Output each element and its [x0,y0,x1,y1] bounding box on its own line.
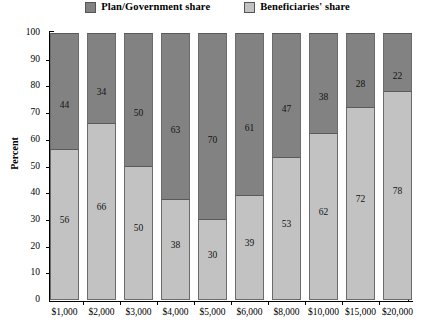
bar-3000: 5050 [124,33,153,300]
bar-segment-plan-government-share: 47 [272,33,301,158]
bar-value-label: 50 [134,224,144,234]
chart-legend: Plan/Government share Beneficiaries' sha… [0,2,435,13]
bar-segment-plan-government-share: 44 [50,33,79,150]
y-tick-label-80: 80 [0,82,40,92]
bar-segment-plan-government-share: 34 [87,33,116,124]
bar-segment-plan-government-share: 28 [346,33,375,108]
bar-segment-beneficiaries-share: 66 [87,124,116,300]
bar-8000: 4753 [272,33,301,300]
bar-value-label: 72 [356,195,366,205]
bar-value-label: 66 [97,203,107,213]
plot-area: 4456346650506338703061394753386228722278 [50,33,412,300]
bar-10000: 3862 [309,33,338,300]
x-tick-mark [268,301,269,305]
x-tick-mark [157,301,158,305]
bar-2000: 3466 [87,33,116,300]
bar-value-label: 28 [356,80,366,90]
x-axis-label-20000: $20,000 [370,307,426,317]
bar-segment-plan-government-share: 38 [309,33,338,134]
legend-item-plan-government-share: Plan/Government share [85,2,210,13]
bar-15000: 2872 [346,33,375,300]
legend-swatch-icon-light [244,2,255,13]
legend-label-plan-government-share: Plan/Government share [101,2,210,13]
x-tick-mark [379,301,380,305]
bar-segment-beneficiaries-share: 50 [124,167,153,301]
bar-segment-beneficiaries-share: 62 [309,134,338,300]
bar-value-label: 53 [282,220,292,230]
x-tick-mark [120,301,121,305]
stacked-bar-chart: Plan/Government share Beneficiaries' sha… [0,0,435,331]
bar-segment-beneficiaries-share: 72 [346,108,375,300]
bar-value-label: 39 [245,239,255,249]
bar-value-label: 78 [393,187,403,197]
bar-segment-plan-government-share: 61 [235,33,264,196]
bar-value-label: 22 [393,72,403,82]
bar-value-label: 70 [208,136,218,146]
x-tick-mark [342,301,343,305]
bar-value-label: 44 [60,101,70,111]
y-tick-label-20: 20 [0,242,40,252]
bar-segment-beneficiaries-share: 56 [50,150,79,300]
bar-value-label: 30 [208,251,218,261]
legend-swatch-icon-dark [85,2,96,13]
y-tick-label-100: 100 [0,28,40,38]
x-axis-labels: $1,000$2,000$3,000$4,000$5,000$6,000$8,0… [0,307,435,327]
bar-value-label: 63 [171,126,181,136]
bar-5000: 7030 [198,33,227,300]
bar-value-label: 34 [97,88,107,98]
bar-1000: 4456 [50,33,79,300]
bar-segment-plan-government-share: 63 [161,33,190,200]
bar-segment-beneficiaries-share: 39 [235,196,264,300]
bar-segment-beneficiaries-share: 78 [383,92,412,300]
bar-value-label: 62 [319,208,329,218]
x-tick-mark [231,301,232,305]
bar-segment-plan-government-share: 22 [383,33,412,92]
bar-value-label: 38 [171,241,181,251]
y-tick-label-10: 10 [0,269,40,279]
bar-value-label: 56 [60,216,70,226]
bar-value-label: 38 [319,93,329,103]
bar-segment-beneficiaries-share: 30 [198,220,227,300]
y-tick-label-70: 70 [0,108,40,118]
bar-value-label: 61 [245,124,255,134]
y-tick-label-50: 50 [0,162,40,172]
y-tick-label-90: 90 [0,55,40,65]
bar-segment-beneficiaries-share: 38 [161,200,190,300]
y-tick-label-60: 60 [0,135,40,145]
bar-segment-beneficiaries-share: 53 [272,158,301,300]
y-axis-ticks: 100 90 80 70 60 50 40 30 20 10 0 [0,0,50,331]
legend-label-beneficiaries-share: Beneficiaries' share [260,2,350,13]
bar-value-label: 47 [282,105,292,115]
y-tick-label-40: 40 [0,188,40,198]
bar-6000: 6139 [235,33,264,300]
bar-segment-plan-government-share: 50 [124,33,153,167]
bar-segment-plan-government-share: 70 [198,33,227,220]
bar-20000: 2278 [383,33,412,300]
y-tick-label-0: 0 [0,295,40,305]
y-axis-top-cap [49,31,54,32]
x-tick-mark [194,301,195,305]
legend-item-beneficiaries-share: Beneficiaries' share [244,2,350,13]
y-tick-label-30: 30 [0,215,40,225]
bar-4000: 6338 [161,33,190,300]
x-tick-mark [83,301,84,305]
bar-value-label: 50 [134,109,144,119]
x-tick-mark [305,301,306,305]
